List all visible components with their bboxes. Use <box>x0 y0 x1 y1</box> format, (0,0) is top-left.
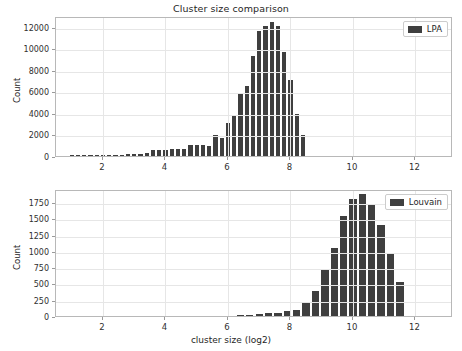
x-tick-label: 12 <box>409 322 420 332</box>
gridline-horizontal <box>56 237 451 238</box>
gridline-vertical <box>290 191 291 316</box>
gridline-horizontal <box>56 220 451 221</box>
x-tick-mark <box>102 317 103 320</box>
subplot-louvain: 02505007501000125015001750 24681012 Coun… <box>0 0 462 351</box>
histogram-bar <box>264 313 273 316</box>
x-tick-label: 4 <box>162 322 167 332</box>
y-tick-mark <box>52 219 55 220</box>
y-tick-mark <box>52 236 55 237</box>
x-tick-mark <box>227 317 228 320</box>
y-tick-mark <box>52 203 55 204</box>
histogram-bar <box>273 313 282 316</box>
gridline-vertical <box>353 191 354 316</box>
y-tick-label: 500 <box>34 280 49 289</box>
y-tick-label: 250 <box>34 296 49 305</box>
figure-canvas: Cluster size comparison 0200040006000800… <box>0 0 462 351</box>
x-tick-mark <box>289 317 290 320</box>
histogram-bar <box>301 302 310 316</box>
y-tick-label: 1500 <box>29 215 49 224</box>
y-tick-label: 1250 <box>29 231 49 240</box>
histogram-bar <box>255 314 264 316</box>
histogram-bar <box>320 270 329 316</box>
histogram-bar <box>292 310 301 317</box>
legend-louvain[interactable]: Louvain <box>385 194 448 210</box>
x-tick-mark <box>352 317 353 320</box>
histogram-bar <box>311 291 320 316</box>
x-tick-mark <box>414 317 415 320</box>
gridline-vertical <box>165 191 166 316</box>
y-axis-label-louvain: Count <box>12 244 22 269</box>
x-tick-label: 10 <box>347 322 358 332</box>
x-tick-label: 8 <box>287 322 292 332</box>
gridline-vertical <box>103 191 104 316</box>
legend-swatch-icon <box>390 199 404 206</box>
histogram-bar <box>245 315 254 316</box>
x-tick-label: 2 <box>99 322 104 332</box>
histogram-bar <box>367 205 376 316</box>
legend-label-louvain: Louvain <box>409 197 442 207</box>
y-tick-label: 1000 <box>29 247 49 256</box>
y-tick-mark <box>52 301 55 302</box>
y-tick-mark <box>52 268 55 269</box>
gridline-horizontal <box>56 285 451 286</box>
gridline-horizontal <box>56 253 451 254</box>
y-tick-label: 750 <box>34 264 49 273</box>
x-tick-mark <box>164 317 165 320</box>
y-tick-label: 0 <box>44 313 49 322</box>
y-tick-mark <box>52 284 55 285</box>
histogram-bar <box>330 248 339 316</box>
x-axis-label: cluster size (log2) <box>0 335 462 345</box>
gridline-horizontal <box>56 269 451 270</box>
histogram-bar <box>395 282 404 316</box>
gridline-horizontal <box>56 302 451 303</box>
y-tick-mark <box>52 252 55 253</box>
histogram-bar <box>236 315 245 316</box>
x-tick-label: 6 <box>224 322 229 332</box>
histogram-bar <box>358 194 367 316</box>
gridline-vertical <box>228 191 229 316</box>
y-tick-label: 1750 <box>29 199 49 208</box>
y-tick-mark <box>52 317 55 318</box>
